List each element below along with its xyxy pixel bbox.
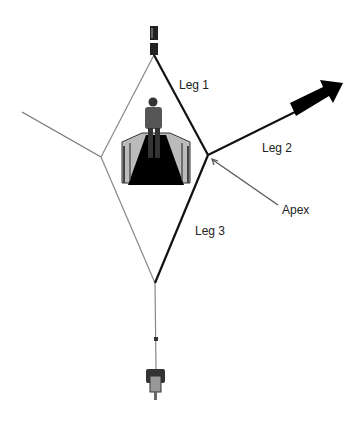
- leg-1-label: Leg 1: [179, 78, 209, 92]
- person-on-walkway-icon: [122, 98, 190, 186]
- top-post-icon: [150, 26, 158, 55]
- apex-label: Apex: [282, 203, 309, 217]
- leg-2-label: Leg 2: [262, 141, 292, 155]
- direction-arrow-icon: [290, 80, 343, 116]
- left-tether-line: [22, 112, 101, 157]
- bottom-tether-line: [155, 283, 156, 370]
- apex-pointer-line: [213, 160, 278, 205]
- leg-3-label: Leg 3: [195, 224, 225, 238]
- bottom-weight-icon: [146, 369, 165, 400]
